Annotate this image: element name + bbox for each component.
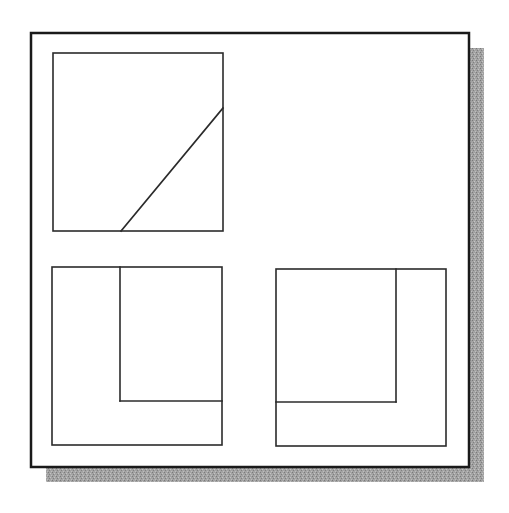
- outer-frame: [31, 33, 469, 467]
- panel-frame: [31, 33, 469, 467]
- shadow-bottom: [46, 467, 484, 482]
- orthographic-drawing: [0, 0, 509, 513]
- shadow-right: [469, 48, 484, 482]
